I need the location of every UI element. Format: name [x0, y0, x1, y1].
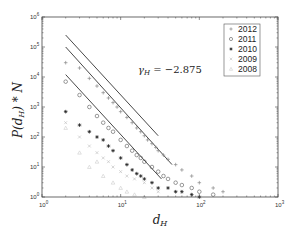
data-point [112, 166, 115, 169]
chart: 100101102103100101102103104105106 γH = −… [0, 0, 296, 232]
data-point [95, 84, 99, 88]
data-point [143, 134, 147, 138]
data-point [96, 151, 99, 154]
data-point [101, 121, 105, 125]
x-tick-label: 100 [39, 200, 49, 208]
data-point [211, 186, 215, 190]
data-point [135, 153, 139, 157]
data-point [125, 163, 129, 167]
y-tick-label: 103 [30, 102, 40, 110]
data-point [102, 157, 105, 160]
y-tick-label: 106 [30, 12, 40, 20]
data-point [88, 130, 92, 134]
data-point [78, 66, 82, 70]
data-point [143, 177, 147, 181]
data-point [88, 105, 92, 109]
data-point [130, 168, 134, 172]
data-point [119, 156, 123, 160]
data-point [156, 170, 160, 174]
legend-label: 2008 [238, 64, 257, 74]
data-point [166, 186, 170, 190]
x-tick-label: 103 [275, 200, 285, 208]
data-point [198, 181, 202, 185]
data-point [107, 144, 111, 148]
data-point [88, 145, 91, 148]
data-point [150, 142, 154, 146]
data-point [139, 174, 143, 178]
y-axis-label: P(dH) * N [11, 81, 26, 139]
data-point [130, 149, 134, 153]
data-point [64, 110, 68, 114]
data-point [111, 181, 115, 184]
legend: 20122011201020092008 [224, 24, 260, 76]
y-tick-label: 102 [30, 132, 40, 140]
data-point [150, 181, 154, 185]
data-point [64, 80, 68, 84]
data-point [78, 151, 82, 154]
data-point [174, 190, 178, 194]
data-point [143, 181, 146, 184]
data-point [119, 138, 123, 142]
data-point [107, 160, 110, 163]
data-point [101, 174, 105, 177]
data-point [180, 168, 184, 172]
data-point [107, 126, 111, 130]
data-point [166, 177, 170, 181]
data-point [125, 190, 129, 193]
data-point [156, 186, 160, 190]
data-point [221, 190, 225, 194]
fit-line [66, 35, 159, 136]
x-tick-label: 101 [118, 200, 128, 208]
data-point [125, 144, 129, 148]
data-point [111, 149, 115, 153]
data-point [88, 165, 92, 168]
slope-annotation: γH = −2.875 [138, 64, 202, 77]
data-point [151, 187, 154, 190]
legend-label: 2012 [238, 24, 257, 34]
data-point [64, 61, 68, 65]
legend-label: 2011 [238, 34, 257, 44]
data-point [133, 193, 137, 196]
data-point [180, 183, 184, 187]
data-point [156, 149, 160, 153]
x-axis-label: dH [153, 213, 169, 228]
data-point [135, 172, 139, 176]
data-point [101, 138, 105, 142]
y-tick-label: 105 [30, 42, 40, 50]
data-point [125, 175, 128, 178]
data-points [64, 61, 225, 199]
data-point [78, 136, 81, 139]
data-point [174, 181, 178, 185]
data-point [78, 123, 82, 127]
data-point [111, 130, 115, 134]
data-point [119, 110, 123, 114]
data-point [157, 190, 160, 193]
data-point [119, 170, 122, 173]
data-point [64, 126, 68, 129]
data-point [162, 174, 166, 178]
y-tick-label: 100 [30, 192, 40, 200]
data-point [198, 190, 202, 194]
data-point [133, 177, 136, 180]
data-point [166, 158, 170, 162]
data-point [190, 174, 194, 178]
data-point [107, 96, 111, 100]
data-point [180, 190, 184, 194]
y-tick-label: 104 [30, 72, 40, 80]
y-tick-label: 101 [30, 162, 40, 170]
data-point [174, 163, 178, 167]
data-point [88, 77, 92, 81]
data-point [190, 186, 194, 190]
x-tick-label: 102 [196, 200, 206, 208]
data-point [95, 160, 99, 163]
data-point [95, 114, 99, 118]
legend-label: 2010 [238, 44, 257, 54]
data-point [211, 193, 215, 197]
fit-line [66, 75, 162, 179]
data-point [64, 121, 67, 124]
data-point [119, 186, 123, 189]
legend-label: 2009 [238, 54, 257, 64]
data-point [101, 91, 105, 95]
data-point [78, 93, 82, 97]
data-point [95, 135, 99, 139]
